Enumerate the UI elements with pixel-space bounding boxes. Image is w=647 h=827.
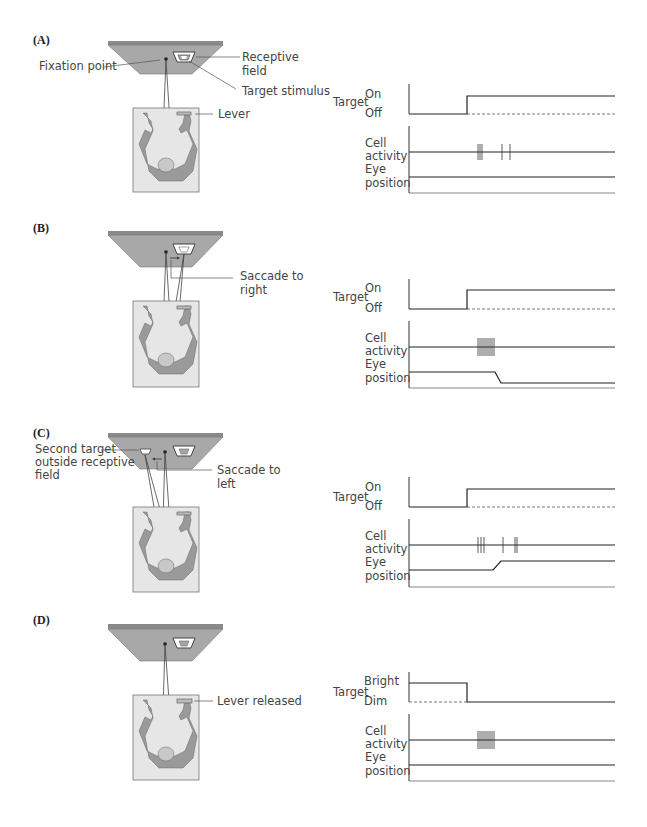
eye-position-label-2: position bbox=[365, 765, 411, 778]
target-axis-label: Target bbox=[333, 96, 369, 109]
eye-position-label-2: position bbox=[365, 570, 411, 583]
target-axis-label: Target bbox=[333, 491, 369, 504]
target-bright-label: Bright bbox=[364, 675, 399, 688]
target-on-label: On bbox=[365, 88, 381, 101]
response-trace-chart bbox=[0, 600, 647, 827]
response-trace-chart bbox=[0, 0, 647, 200]
panel-c: (C) Second target outside receptive fiel… bbox=[0, 395, 647, 600]
panel-a: (A) Fixation point Receptive field Targe… bbox=[0, 0, 647, 200]
target-off-label: Off bbox=[365, 107, 382, 120]
target-on-label: On bbox=[365, 282, 381, 295]
panel-b: (B) Saccade to right Target On bbox=[0, 200, 647, 395]
eye-position-label: Eye bbox=[365, 358, 386, 371]
panel-d: (D) Lever released Target Bright Dim Cel… bbox=[0, 600, 647, 827]
eye-position-label: Eye bbox=[365, 163, 386, 176]
target-off-label: Off bbox=[365, 500, 382, 513]
eye-position-label-2: position bbox=[365, 372, 411, 385]
response-trace-chart bbox=[0, 200, 647, 395]
target-off-label: Off bbox=[365, 302, 382, 315]
target-on-label: On bbox=[365, 481, 381, 494]
eye-position-label: Eye bbox=[365, 751, 386, 764]
target-axis-label: Target bbox=[333, 291, 369, 304]
eye-position-label-2: position bbox=[365, 177, 411, 190]
eye-position-label: Eye bbox=[365, 556, 386, 569]
target-dim-label: Dim bbox=[364, 695, 387, 708]
response-trace-chart bbox=[0, 395, 647, 600]
